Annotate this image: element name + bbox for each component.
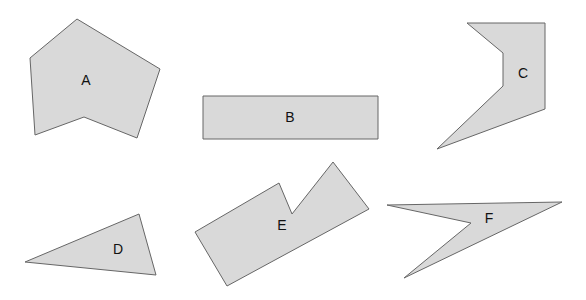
shape-f: F	[387, 202, 562, 278]
shape-f-label: F	[485, 210, 494, 226]
shape-a-label: A	[81, 72, 91, 88]
shape-c-label: C	[518, 65, 528, 81]
shape-e: E	[195, 162, 369, 286]
shape-d-label: D	[113, 241, 123, 257]
shape-a: A	[30, 19, 160, 138]
shape-d-polygon	[25, 214, 156, 275]
shape-f-polygon	[387, 202, 562, 278]
shape-a-polygon	[30, 19, 160, 138]
shape-c: C	[437, 23, 545, 149]
shape-b-label: B	[285, 109, 294, 125]
shapes-diagram: A B C D E F	[0, 0, 586, 300]
shape-d: D	[25, 214, 156, 275]
shape-b: B	[203, 96, 378, 139]
shape-e-label: E	[277, 217, 286, 233]
shape-c-polygon	[437, 23, 545, 149]
